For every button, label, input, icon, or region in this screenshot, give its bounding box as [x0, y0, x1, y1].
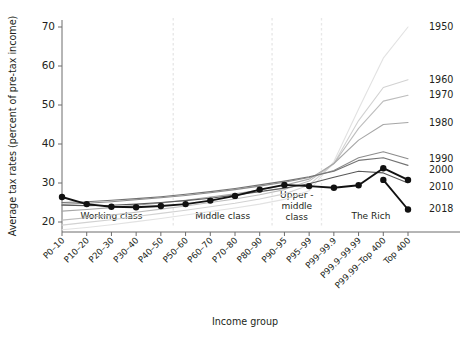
series-marker-2018-6 [207, 197, 213, 203]
band-label-2-line-1: middle [281, 201, 312, 211]
series-marker-2018-11 [331, 185, 337, 191]
y-tick-label-30: 30 [42, 176, 55, 188]
y-tick-label-40: 40 [42, 137, 55, 149]
series-marker-2018-tail-0 [380, 177, 386, 183]
x-tick-label-1: P10–20 [62, 235, 91, 264]
series-label-1990: 1990 [429, 153, 453, 164]
series-marker-2018-13 [380, 165, 386, 171]
series-marker-2018-1 [84, 201, 90, 207]
y-tick-label-50: 50 [42, 98, 55, 110]
series-marker-2018-tail-1 [405, 206, 411, 212]
series-line-1960 [62, 80, 408, 225]
series-marker-2018-9 [281, 182, 287, 188]
series-marker-2018-7 [232, 193, 238, 199]
series-marker-2018-3 [133, 204, 139, 210]
series-label-1980: 1980 [429, 117, 453, 128]
series-marker-2018-12 [355, 182, 361, 188]
series-label-2000: 2000 [429, 164, 453, 175]
series-marker-2018-5 [182, 201, 188, 207]
series-marker-2018-8 [257, 186, 263, 192]
y-tick-label-60: 60 [42, 59, 55, 71]
series-marker-2018-4 [158, 203, 164, 209]
band-label-3-line-0: The Rich [350, 211, 390, 221]
series-labels: 19501960197019801990200020102018 [429, 21, 453, 214]
chart-canvas: 203040506070Average tax rates (percent o… [0, 0, 469, 340]
x-axis: P0–10P10–20P20–30P30–40P40–50P50–60P60–7… [41, 232, 460, 290]
series-label-2010: 2010 [429, 181, 453, 192]
x-tick-label-2: P20–30 [87, 235, 116, 264]
y-axis: 203040506070 [42, 20, 62, 232]
x-tick-label-14: Top 400 [381, 235, 413, 267]
series-label-2018: 2018 [429, 203, 453, 214]
x-tick-label-7: P70–80 [210, 235, 239, 264]
x-tick-label-9: P90–95 [260, 235, 289, 264]
series-marker-2018-2 [108, 204, 114, 210]
band-label-2-line-2: class [286, 212, 309, 222]
tax-rates-line-chart: 203040506070Average tax rates (percent o… [0, 0, 469, 340]
series-marker-2018-10 [306, 183, 312, 189]
series-group [59, 27, 411, 230]
x-axis-title: Income group [212, 316, 278, 327]
y-axis-title: Average tax rates (percent of pre-tax in… [7, 16, 18, 237]
series-label-1960: 1960 [429, 74, 453, 85]
series-marker-2018-14 [405, 177, 411, 183]
x-tick-label-8: P80–90 [235, 235, 264, 264]
y-tick-label-70: 70 [42, 20, 55, 32]
series-label-1950: 1950 [429, 21, 453, 32]
series-label-1970: 1970 [429, 89, 453, 100]
x-tick-label-4: P40–50 [136, 235, 165, 264]
series-line-2018-tail [383, 180, 408, 210]
x-tick-label-5: P50–60 [161, 235, 190, 264]
x-tick-label-3: P30–40 [111, 235, 140, 264]
x-tick-label-6: P60–70 [185, 235, 214, 264]
series-marker-2018-0 [59, 194, 65, 200]
y-tick-label-20: 20 [42, 215, 55, 227]
